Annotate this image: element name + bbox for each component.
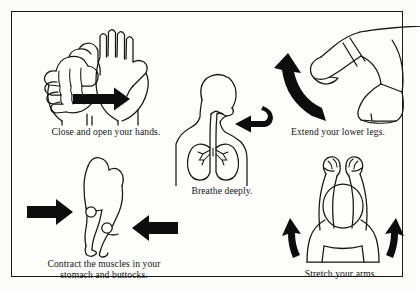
head-and-torso-icon xyxy=(176,75,247,187)
caption-extend-lower-legs: Extend your lower legs. xyxy=(260,126,416,137)
closed-fist-icon xyxy=(45,43,101,125)
panel-contract-muscles: Contract the muscles in your stomach and… xyxy=(22,152,186,292)
right-stretch-arrow-icon xyxy=(385,218,404,258)
buttocks-marker-circle xyxy=(102,223,112,233)
panel-stretch-arms: Stretch your arms. xyxy=(268,150,418,290)
left-pressure-arrow-icon xyxy=(27,199,73,225)
seated-legs-icon xyxy=(310,26,420,123)
outer-border-frame: Close and open your hands. xyxy=(11,11,403,277)
left-stretch-arrow-icon xyxy=(282,218,301,258)
lungs-icon xyxy=(188,144,239,180)
caption-stretch-arms: Stretch your arms. xyxy=(266,268,416,279)
right-pressure-arrow-icon xyxy=(132,215,178,241)
legs-illustration xyxy=(264,26,420,126)
body-contract-illustration xyxy=(22,152,186,260)
leg-extension-arrow-icon xyxy=(274,53,326,121)
open-palm-icon xyxy=(96,30,148,125)
caption-contract-muscles: Contract the muscles in your stomach and… xyxy=(22,258,186,281)
stomach-marker-circle xyxy=(86,207,96,217)
panel-extend-lower-legs: Extend your lower legs. xyxy=(264,26,420,144)
stretch-arms-illustration xyxy=(268,150,418,270)
person-from-behind-icon xyxy=(307,157,379,262)
